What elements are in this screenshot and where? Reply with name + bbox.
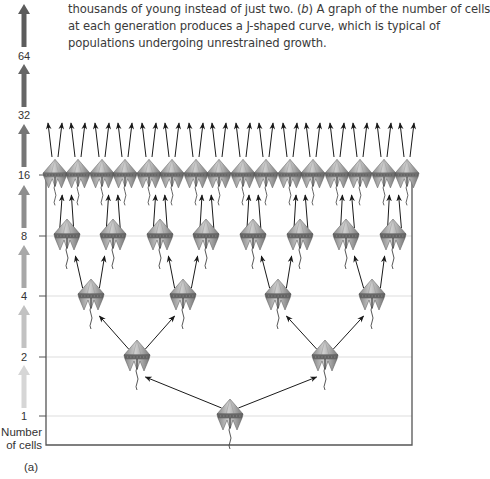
cell-icon <box>333 219 359 269</box>
division-arrow <box>399 195 402 228</box>
cell-icon <box>217 399 243 449</box>
growth-arrow-icon <box>18 365 30 408</box>
division-arrow <box>60 195 62 228</box>
cell-icon <box>372 159 396 205</box>
division-arrow <box>212 123 216 157</box>
division-arrow <box>58 123 62 157</box>
cell-icon <box>207 159 231 205</box>
division-arrow <box>175 123 179 157</box>
division-arrow <box>145 377 221 408</box>
division-arrow <box>99 256 104 288</box>
division-arrow <box>189 123 193 157</box>
division-arrow <box>99 316 128 349</box>
division-arrow <box>294 195 296 228</box>
division-arrow <box>165 195 167 228</box>
division-arrow <box>238 377 316 408</box>
division-arrow <box>222 123 226 157</box>
division-arrow <box>199 123 203 157</box>
division-arrow <box>152 123 156 157</box>
division-arrow <box>387 123 391 157</box>
division-arrow <box>410 123 414 157</box>
cell-icon <box>301 159 325 205</box>
division-arrow <box>211 195 214 228</box>
division-arrow <box>95 123 99 157</box>
y-axis-title-line2: of cells <box>6 439 42 451</box>
tick-label: 32 <box>18 109 30 121</box>
tick-label: 8 <box>21 230 27 242</box>
division-arrow <box>247 195 249 228</box>
tick-label: 64 <box>18 50 30 62</box>
division-arrow <box>340 123 344 157</box>
growth-arrow-icon <box>18 185 30 228</box>
division-arrow <box>48 123 52 157</box>
division-arrow <box>316 123 320 157</box>
tick-label: 1 <box>21 410 27 422</box>
tick-label: 2 <box>21 351 27 363</box>
y-axis-title-line1: Number <box>1 426 42 438</box>
cell-icon <box>240 219 266 269</box>
division-arrow <box>333 316 363 349</box>
growth-arrow-icon <box>18 245 30 288</box>
division-arrow <box>142 123 146 157</box>
division-arrow <box>269 123 273 157</box>
division-arrow <box>118 123 122 157</box>
cell-icon <box>254 159 278 205</box>
division-arrow <box>106 195 108 228</box>
division-arrow <box>191 256 197 288</box>
cell-icon <box>90 159 114 205</box>
division-arrow <box>81 123 85 157</box>
division-arrow <box>236 123 240 157</box>
division-arrow <box>246 123 250 157</box>
growth-arrows <box>18 4 30 408</box>
division-arrow <box>352 195 355 228</box>
division-arrow <box>168 256 174 288</box>
panel-label: (a) <box>24 461 38 473</box>
division-arrow <box>118 195 120 228</box>
division-arrow <box>71 195 73 228</box>
cell-icon <box>66 159 90 205</box>
division-arrow <box>200 195 202 228</box>
tick-label: 16 <box>18 169 30 181</box>
division-arrow <box>293 123 297 157</box>
division-arrow <box>363 123 367 157</box>
division-arrow <box>286 316 316 349</box>
cell-icon <box>54 219 80 269</box>
division-arrow <box>400 123 404 157</box>
division-arrow <box>286 256 291 288</box>
tick-label: 4 <box>21 290 27 302</box>
division-arrow <box>145 316 174 349</box>
growth-arrow-icon <box>18 64 30 107</box>
cells <box>43 159 419 449</box>
division-arrow <box>353 123 357 157</box>
growth-arrow-icon <box>18 4 30 47</box>
division-arrow <box>380 256 384 288</box>
cell-icon <box>184 159 208 205</box>
division-arrow <box>354 256 363 288</box>
growth-arrow-icon <box>18 124 30 167</box>
division-arrow <box>283 123 287 157</box>
division-arrow <box>165 123 169 157</box>
cell-icon <box>113 159 137 205</box>
division-arrow <box>330 123 334 157</box>
division-arrow <box>105 123 109 157</box>
cell-icon <box>231 159 255 205</box>
division-arrow <box>75 256 82 288</box>
division-arrow <box>305 195 308 228</box>
cell-icon <box>137 159 161 205</box>
division-arrow <box>377 123 381 157</box>
division-arrow <box>306 123 310 157</box>
division-arrow <box>261 256 269 288</box>
division-arrow <box>128 123 132 157</box>
cell-icon <box>160 159 184 205</box>
division-arrow <box>71 123 75 157</box>
cell-icon <box>278 159 302 205</box>
division-arrow <box>153 195 155 228</box>
division-arrow <box>259 123 263 157</box>
growth-arrow-icon <box>18 305 30 348</box>
cell-icon <box>325 159 349 205</box>
division-arrow <box>258 195 261 228</box>
